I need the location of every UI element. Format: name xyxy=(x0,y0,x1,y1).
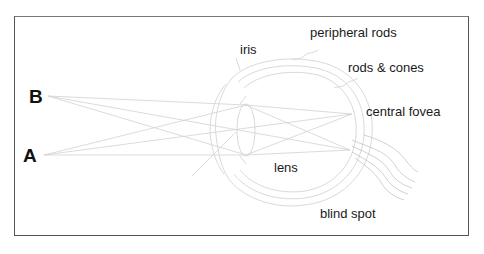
rods-cones-label: rods & cones xyxy=(348,61,424,74)
eye-diagram-drawing xyxy=(0,0,484,254)
rays-from-b xyxy=(48,96,350,155)
optic-nerve xyxy=(352,135,418,200)
lens-label: lens xyxy=(274,161,298,174)
central-fovea-label: central fovea xyxy=(366,105,440,118)
iris-leader xyxy=(236,58,240,70)
iris-label: iris xyxy=(240,43,257,56)
blind-spot-label: blind spot xyxy=(320,207,376,220)
iris-top xyxy=(240,96,246,104)
peripheral-rods-label: peripheral rods xyxy=(310,26,397,39)
point-a-label: A xyxy=(23,146,37,165)
peripheral-rods-leader xyxy=(292,50,318,60)
iris-bottom xyxy=(240,156,246,164)
rays-from-a xyxy=(44,105,352,155)
point-b-label: B xyxy=(29,87,43,106)
cornea xyxy=(216,78,232,178)
